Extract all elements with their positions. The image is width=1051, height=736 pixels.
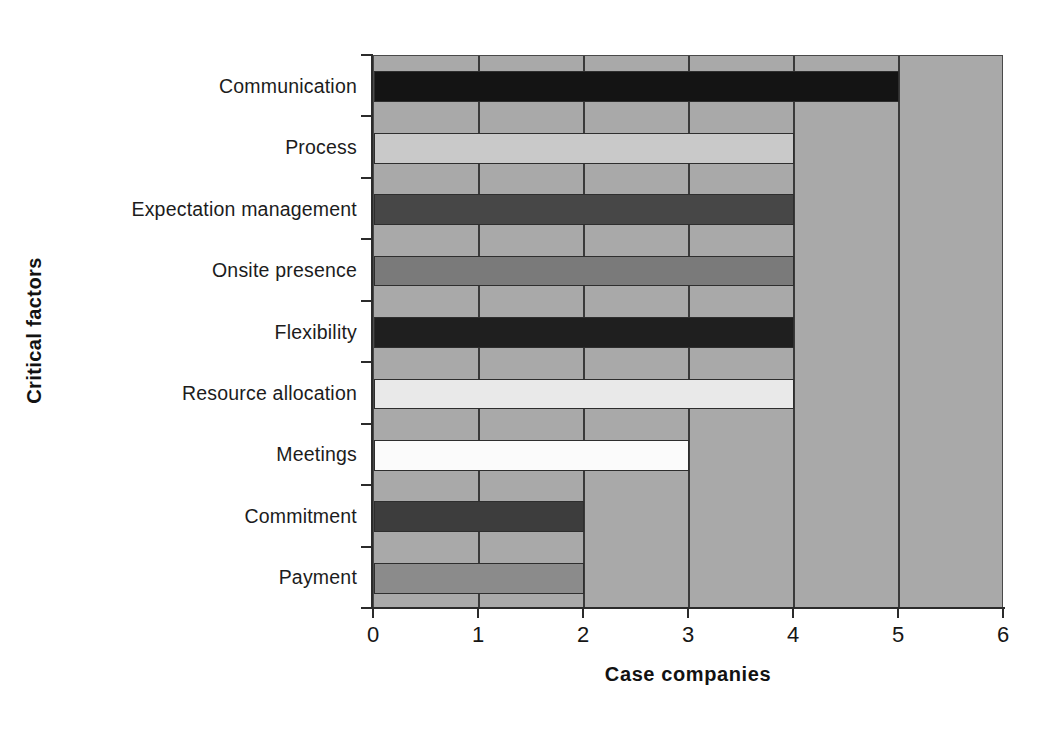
y-axis-tick-label: Communication — [219, 74, 357, 97]
y-axis-tick-label: Commitment — [244, 504, 357, 527]
x-axis-tick-label: 2 — [563, 622, 603, 648]
x-axis-tick-label: 3 — [668, 622, 708, 648]
bar — [374, 379, 794, 410]
x-axis-tick — [477, 608, 479, 618]
x-axis-tick — [372, 608, 374, 618]
x-axis-tick-label: 4 — [773, 622, 813, 648]
y-axis-tick — [361, 54, 372, 56]
bar — [374, 133, 794, 164]
bar — [374, 317, 794, 348]
x-axis-tick-label: 5 — [878, 622, 918, 648]
x-axis-tick — [582, 608, 584, 618]
x-axis-tick — [897, 608, 899, 618]
y-axis-tick — [361, 484, 372, 486]
y-axis-tick-label: Payment — [279, 566, 357, 589]
y-axis-tick — [361, 423, 372, 425]
bar — [374, 256, 794, 287]
gridline-vertical — [898, 56, 900, 607]
y-axis-category-labels: CommunicationProcessExpectation manageme… — [60, 55, 365, 608]
y-axis-tick-label: Flexibility — [275, 320, 357, 343]
y-axis-tick — [361, 361, 372, 363]
x-axis-tick — [687, 608, 689, 618]
y-axis-tick — [361, 607, 372, 609]
y-axis-tick-label: Meetings — [276, 443, 357, 466]
bar — [374, 563, 584, 594]
x-axis-tick-label: 0 — [353, 622, 393, 648]
y-axis-title-text: Critical factors — [23, 257, 46, 403]
x-axis-title: Case companies — [373, 663, 1003, 686]
y-axis-tick — [361, 177, 372, 179]
chart-figure: Critical factors CommunicationProcessExp… — [0, 0, 1051, 736]
plot-area — [373, 55, 1003, 608]
bar — [374, 501, 584, 532]
x-axis-tick — [1002, 608, 1004, 618]
y-axis-line — [371, 54, 373, 609]
y-axis-tick-label: Resource allocation — [182, 381, 357, 404]
y-axis-tick — [361, 238, 372, 240]
y-axis-tick — [361, 546, 372, 548]
y-axis-tick-label: Process — [285, 136, 357, 159]
x-axis-tick — [792, 608, 794, 618]
y-axis-title: Critical factors — [14, 200, 54, 460]
x-axis-tick-label: 1 — [458, 622, 498, 648]
x-axis-tick-label: 6 — [983, 622, 1023, 648]
bar — [374, 194, 794, 225]
y-axis-tick-label: Expectation management — [131, 197, 357, 220]
y-axis-tick-label: Onsite presence — [212, 259, 357, 282]
y-axis-tick — [361, 300, 372, 302]
y-axis-tick — [361, 115, 372, 117]
bar — [374, 71, 899, 102]
bar — [374, 440, 689, 471]
